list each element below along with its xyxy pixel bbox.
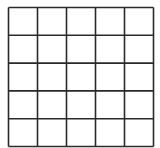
grid-cell-r4-c4 (96, 91, 125, 119)
grid-cell-r5-c3 (67, 119, 96, 147)
grid-cell-r1-c3 (67, 8, 96, 36)
grid-cell-r3-c5 (125, 63, 154, 91)
grid-cell-r4-c1 (9, 91, 38, 119)
grid-cell-r2-c5 (125, 35, 154, 63)
grid-cell-r1-c4 (96, 8, 125, 36)
grid-cell-r1-c1 (9, 8, 38, 36)
grid-cell-r2-c4 (96, 35, 125, 63)
grid-cell-r4-c3 (67, 91, 96, 119)
grid-cell-r2-c2 (38, 35, 67, 63)
grid-cell-r2-c3 (67, 35, 96, 63)
grid-cell-r5-c2 (38, 119, 67, 147)
grid-cell-r2-c1 (9, 35, 38, 63)
grid-cell-r1-c2 (38, 8, 67, 36)
grid-cell-r1-c5 (125, 8, 154, 36)
grid-cell-r4-c5 (125, 91, 154, 119)
grid-cell-r3-c4 (96, 63, 125, 91)
grid-cell-r4-c2 (38, 91, 67, 119)
grid-cell-r5-c4 (96, 119, 125, 147)
grid-cell-r5-c5 (125, 119, 154, 147)
grid-cell-r3-c3 (67, 63, 96, 91)
grid-cell-r3-c2 (38, 63, 67, 91)
grid-diagram (0, 0, 160, 148)
grid-cell-r5-c1 (9, 119, 38, 147)
grid-cell-r3-c1 (9, 63, 38, 91)
